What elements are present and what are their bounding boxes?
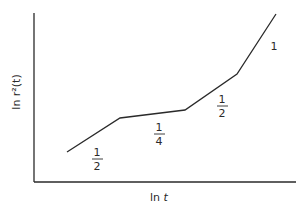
- x-axis-label: ln t: [150, 191, 169, 204]
- slope-label-segment-2: 1 4: [154, 121, 165, 148]
- svg-text:1: 1: [219, 93, 226, 106]
- log-log-msd-diagram: ln r²(t) ln t 1 2 1 4 1 2 1: [0, 0, 306, 207]
- slope-label-segment-1: 1 2: [92, 146, 103, 173]
- svg-text:1: 1: [156, 121, 163, 134]
- y-axis-label: ln r²(t): [10, 74, 23, 109]
- svg-text:4: 4: [156, 135, 163, 148]
- slope-label-segment-4: 1: [271, 40, 278, 53]
- svg-text:1: 1: [94, 146, 101, 159]
- svg-text:2: 2: [94, 160, 101, 173]
- slope-label-segment-3: 1 2: [217, 93, 228, 120]
- svg-text:2: 2: [219, 107, 226, 120]
- msd-curve: [67, 14, 276, 152]
